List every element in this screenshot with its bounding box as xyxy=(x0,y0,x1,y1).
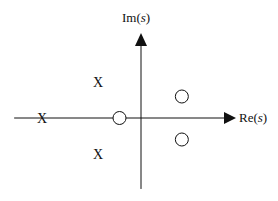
pole-zero-diagram: Re(s) Im(s) XXX xyxy=(0,0,278,201)
zero-marker xyxy=(175,90,188,103)
imaginary-axis-arrow-icon xyxy=(135,33,147,46)
real-axis-arrow-icon xyxy=(224,112,236,124)
pole-marker: X xyxy=(37,111,47,126)
zero-marker xyxy=(175,133,188,146)
imaginary-axis-label: Im(s) xyxy=(122,10,150,25)
real-axis-label: Re(s) xyxy=(239,110,267,125)
pole-marker: X xyxy=(93,75,103,90)
zero-marker xyxy=(113,112,126,125)
pole-marker: X xyxy=(93,147,103,162)
